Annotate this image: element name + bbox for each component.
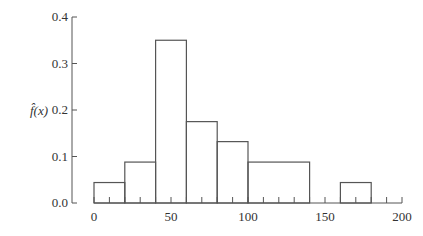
y-axis-label: f̂(x) — [30, 103, 48, 118]
histogram-chart: 0.00.10.20.30.4 050100150200 f̂(x) — [0, 0, 423, 236]
x-tick-label: 200 — [392, 209, 412, 224]
y-tick-label: 0.4 — [52, 9, 69, 24]
x-axis: 050100150200 — [91, 197, 412, 224]
y-tick-label: 0.0 — [52, 195, 68, 210]
x-tick-label: 0 — [91, 209, 98, 224]
histogram-bar — [156, 40, 187, 203]
y-tick-label: 0.2 — [52, 102, 68, 117]
y-tick-label: 0.3 — [52, 56, 68, 71]
x-tick-label: 150 — [315, 209, 335, 224]
y-axis: 0.00.10.20.30.4 — [52, 9, 77, 210]
histogram-bar — [186, 122, 217, 203]
x-tick-label: 50 — [165, 209, 178, 224]
histogram-bar — [217, 142, 248, 203]
histogram-bars — [94, 40, 371, 203]
histogram-bar — [125, 162, 156, 203]
histogram-bar — [248, 162, 310, 203]
y-tick-label: 0.1 — [52, 149, 68, 164]
x-tick-label: 100 — [238, 209, 258, 224]
